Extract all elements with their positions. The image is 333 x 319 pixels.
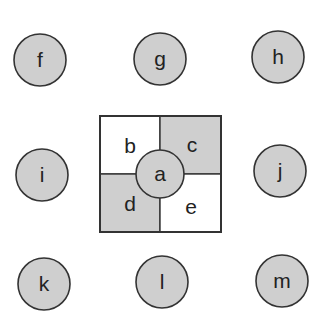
- node-m-label: m: [273, 269, 291, 292]
- node-k-label: k: [39, 272, 50, 295]
- quadrant-d-label: d: [124, 192, 136, 215]
- node-l-label: l: [160, 270, 165, 293]
- node-f-label: f: [37, 48, 43, 71]
- node-h-label: h: [272, 45, 284, 68]
- quadrant-e-label: e: [185, 195, 197, 218]
- center-node-label: a: [154, 162, 166, 185]
- quadrant-c-label: c: [187, 133, 198, 156]
- quadrant-b-label: b: [124, 134, 136, 157]
- node-j-label: j: [277, 159, 283, 182]
- node-g-label: g: [154, 47, 166, 70]
- neighborhood-diagram: b c d e a f g h i j k l m: [0, 0, 333, 319]
- node-i-label: i: [40, 163, 45, 186]
